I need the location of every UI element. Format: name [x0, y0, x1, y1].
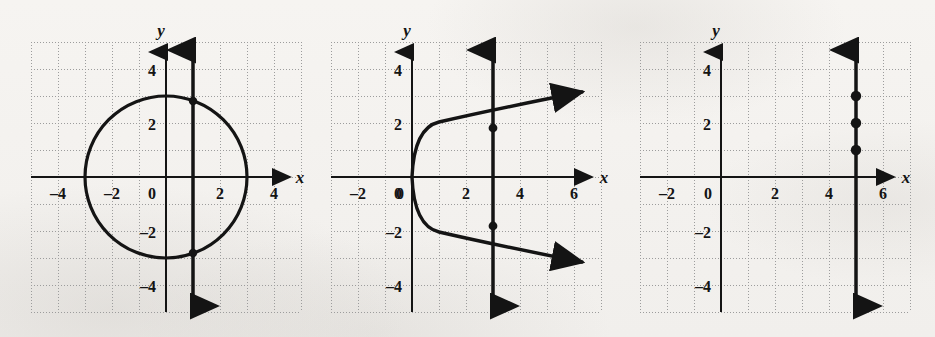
parabola-curve-lower	[412, 177, 582, 262]
x-tick-label: 4	[270, 185, 278, 202]
y-axis-label: y	[401, 21, 411, 40]
y-axis-label: y	[710, 21, 720, 40]
x-tick-label: 2	[771, 185, 779, 202]
data-point	[851, 145, 861, 155]
y-tick-label: 2	[394, 116, 402, 133]
x-axis-label: x	[901, 168, 911, 187]
y-tick-label: –4	[385, 278, 402, 295]
y-axis-label: y	[155, 21, 165, 40]
x-tick-label: –2	[658, 185, 675, 202]
y-tick-label: 4	[394, 62, 402, 79]
intersection-point	[189, 97, 197, 105]
panel-parabola: –2 0 2 4 6 4 2 0 –2 –4 x y	[310, 0, 622, 337]
y-tick-label: 2	[703, 116, 711, 133]
intersection-point	[489, 222, 498, 231]
x-axis-label: x	[295, 168, 305, 187]
x-tick-label: –4	[49, 185, 66, 202]
panel-circle: –4 –2 0 2 4 4 2 –2 –4 x y	[0, 0, 310, 337]
x-tick-label: 4	[825, 185, 833, 202]
x-tick-label: 6	[879, 185, 887, 202]
x-tick-label: –2	[349, 185, 366, 202]
panel-circle-plot: –4 –2 0 2 4 4 2 –2 –4 x y	[0, 0, 310, 337]
y-tick-label: 0	[394, 185, 402, 202]
y-tick-label: –4	[694, 278, 711, 295]
x-tick-label: 0	[148, 185, 156, 202]
panel-points: –2 0 2 4 6 4 2 –2 –4 x y	[622, 0, 935, 337]
figure-row: –4 –2 0 2 4 4 2 –2 –4 x y	[0, 0, 935, 337]
y-tick-label: 4	[703, 62, 711, 79]
x-tick-label: 2	[462, 185, 470, 202]
x-axis-label: x	[599, 168, 609, 187]
parabola-curve-upper	[412, 92, 582, 177]
panel-points-plot: –2 0 2 4 6 4 2 –2 –4 x y	[622, 0, 935, 337]
x-tick-label: 2	[216, 185, 224, 202]
x-tick-label: 0	[704, 185, 712, 202]
y-tick-label: –2	[139, 224, 156, 241]
x-tick-label: –2	[103, 185, 120, 202]
x-tick-label: 4	[516, 185, 524, 202]
x-tick-label: 6	[570, 185, 578, 202]
y-tick-label: –2	[694, 224, 711, 241]
y-tick-label: –2	[385, 224, 402, 241]
intersection-point	[489, 124, 498, 133]
data-point	[851, 91, 861, 101]
y-tick-label: 2	[148, 116, 156, 133]
panel-parabola-plot: –2 0 2 4 6 4 2 0 –2 –4 x y	[310, 0, 622, 337]
intersection-point	[189, 249, 197, 257]
data-point	[851, 118, 861, 128]
y-tick-label: –4	[139, 278, 156, 295]
y-tick-label: 4	[148, 62, 156, 79]
